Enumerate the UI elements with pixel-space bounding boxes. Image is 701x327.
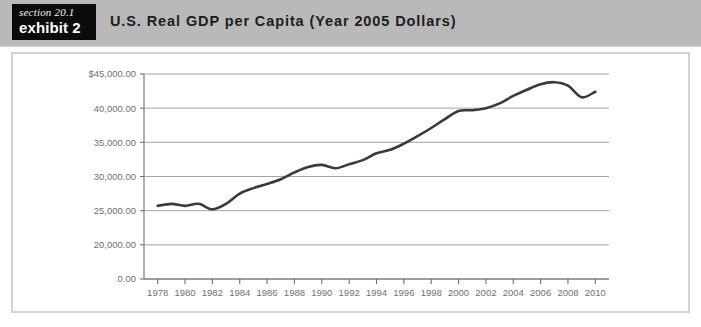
chart-card: $45,000.0040,000.0035,000.0030,000.0025,… [11, 52, 690, 313]
x-tick-labels-group: 1978198019821984198619881990199219941996… [147, 287, 606, 298]
x-axis-tick-label: 1986 [257, 287, 278, 298]
x-axis-tick-label: 2000 [448, 287, 469, 298]
plot-background [13, 54, 688, 311]
x-axis-tick-label: 2004 [503, 287, 524, 298]
x-axis-tick-label: 1978 [147, 287, 168, 298]
exhibit-header-band: section 20.1 exhibit 2 U.S. Real GDP per… [0, 0, 701, 47]
section-tag: section 20.1 exhibit 2 [12, 4, 96, 40]
y-axis-tick-label: 0.00 [118, 273, 137, 284]
x-axis-tick-label: 1980 [174, 287, 195, 298]
y-axis-tick-label: 30,000.00 [94, 171, 136, 182]
exhibit-label: exhibit 2 [12, 19, 96, 36]
exhibit-container: section 20.1 exhibit 2 U.S. Real GDP per… [0, 0, 701, 327]
x-axis-tick-label: 1998 [421, 287, 442, 298]
x-axis-tick-label: 1984 [229, 287, 250, 298]
gdp-per-capita-line-chart: $45,000.0040,000.0035,000.0030,000.0025,… [13, 54, 688, 311]
x-axis-tick-label: 2008 [557, 287, 578, 298]
x-axis-tick-label: 1990 [311, 287, 332, 298]
y-axis-tick-label: 25,000.00 [94, 205, 136, 216]
x-axis-tick-label: 2006 [530, 287, 551, 298]
y-axis-tick-label: 40,000.00 [94, 103, 136, 114]
x-axis-tick-label: 2002 [475, 287, 496, 298]
page-title: U.S. Real GDP per Capita (Year 2005 Doll… [110, 13, 456, 29]
x-axis-tick-label: 2010 [585, 287, 606, 298]
x-axis-tick-label: 1994 [366, 287, 387, 298]
y-axis-tick-label: 35,000.00 [94, 137, 136, 148]
y-axis-tick-label: 20,000.00 [94, 239, 136, 250]
x-axis-tick-label: 1996 [393, 287, 414, 298]
x-axis-tick-label: 1988 [284, 287, 305, 298]
x-axis-tick-label: 1982 [202, 287, 223, 298]
section-label: section 20.1 [12, 6, 96, 19]
x-axis-tick-label: 1992 [339, 287, 360, 298]
y-axis-tick-label: $45,000.00 [88, 68, 136, 79]
